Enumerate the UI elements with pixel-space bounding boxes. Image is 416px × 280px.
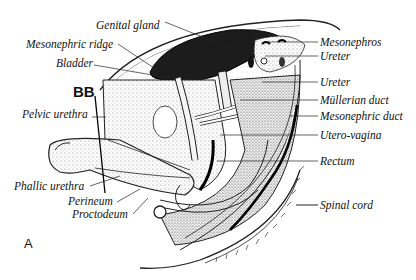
label-ureter-upper: Ureter	[320, 51, 350, 63]
label-pelvic-urethra: Pelvic urethra	[22, 109, 88, 121]
label-bladder: Bladder	[56, 58, 93, 70]
label-mullerian-duct: Müllerian duct	[320, 95, 389, 107]
label-mesonephric-duct: Mesonephric duct	[320, 111, 403, 123]
label-genital-gland: Genital gland	[96, 20, 160, 32]
label-proctodeum: Proctodeum	[72, 209, 128, 221]
label-mesonephric-ridge: Mesonephric ridge	[26, 39, 113, 51]
panel-letter: A	[24, 237, 33, 250]
label-phallic-urethra: Phallic urethra	[14, 181, 84, 193]
label-bb-marker: BB	[73, 84, 95, 99]
label-utero-vagina: Utero-vagina	[320, 130, 382, 142]
label-spinal-cord: Spinal cord	[320, 200, 373, 212]
label-perineum: Perineum	[68, 196, 113, 208]
bladder-lumen	[153, 106, 177, 138]
proctodeum-ring	[154, 206, 166, 218]
label-ureter-lower: Ureter	[320, 77, 350, 89]
label-mesonephros: Mesonephros	[320, 37, 382, 49]
label-rectum: Rectum	[320, 156, 354, 168]
